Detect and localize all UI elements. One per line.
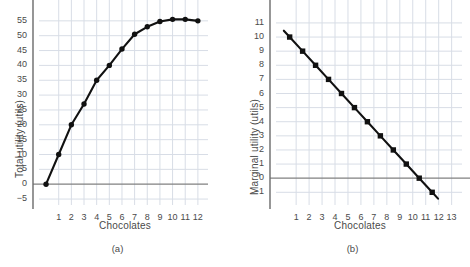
y-axis-tick-label: 0: [238, 172, 264, 182]
data-point: [287, 34, 292, 39]
data-point: [69, 122, 74, 127]
y-axis-tick-label: 55: [1, 15, 27, 25]
data-point: [183, 17, 188, 22]
y-axis-tick-label: 1: [238, 158, 264, 168]
x-axis-tick-label: 13: [443, 212, 461, 222]
data-point: [107, 63, 112, 68]
y-axis-tick-label: 10: [1, 149, 27, 159]
y-axis-tick-label: 10: [238, 31, 264, 41]
y-axis-tick-label: 45: [1, 45, 27, 55]
y-axis-tick-label: 0: [1, 178, 27, 188]
y-axis-tick-label: 50: [1, 30, 27, 40]
data-point: [417, 175, 422, 180]
y-axis-tick-label: 4: [238, 116, 264, 126]
data-point: [119, 46, 124, 51]
data-point: [300, 48, 305, 53]
data-point: [378, 133, 383, 138]
y-axis-tick-label: 20: [1, 119, 27, 129]
y-axis-tick-label: 7: [238, 73, 264, 83]
data-point: [365, 119, 370, 124]
panel-marginal-utility: Marginal utility (utils) Chocolates (b) …: [235, 0, 470, 267]
data-point: [132, 32, 137, 37]
data-point: [339, 91, 344, 96]
data-point: [326, 77, 331, 82]
data-point: [429, 190, 434, 195]
data-point: [56, 152, 61, 157]
data-point: [145, 24, 150, 29]
data-point: [195, 18, 200, 23]
y-axis-tick-label: 2: [238, 144, 264, 154]
y-axis-tick-label: 11: [238, 17, 264, 27]
y-axis-tick-label: −5: [1, 193, 27, 203]
y-axis-tick-label: 30: [1, 89, 27, 99]
y-axis-tick-label: 5: [1, 163, 27, 173]
figure-two-panel-utility: Total utility (utils) Chocolates (a) −50…: [0, 0, 470, 267]
y-axis-tick-label: 6: [238, 88, 264, 98]
y-axis-tick-label: 9: [238, 45, 264, 55]
data-point: [352, 105, 357, 110]
data-point: [170, 17, 175, 22]
y-axis-tick-label: 35: [1, 74, 27, 84]
panel-caption-a: (a): [0, 243, 235, 254]
data-point: [157, 19, 162, 24]
data-point: [391, 147, 396, 152]
y-axis-tick-label: −1: [238, 186, 264, 196]
data-point: [404, 161, 409, 166]
panel-total-utility: Total utility (utils) Chocolates (a) −50…: [0, 0, 235, 267]
data-point: [43, 182, 48, 187]
y-axis-tick-label: 3: [238, 130, 264, 140]
panel-caption-b: (b): [235, 243, 470, 254]
y-axis-tick-label: 25: [1, 104, 27, 114]
data-point: [81, 101, 86, 106]
y-axis-tick-label: 5: [238, 102, 264, 112]
y-axis-tick-label: 15: [1, 134, 27, 144]
y-axis-tick-label: 8: [238, 59, 264, 69]
y-axis-tick-label: 40: [1, 59, 27, 69]
x-axis-tick-label: 12: [189, 212, 207, 222]
data-point: [313, 63, 318, 68]
data-point: [94, 78, 99, 83]
